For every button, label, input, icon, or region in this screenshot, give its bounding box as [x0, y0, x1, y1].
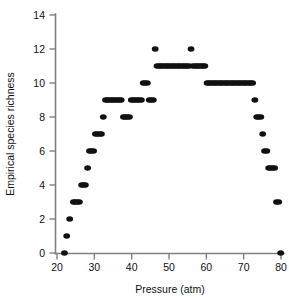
y-tick-label: 12 [33, 43, 45, 55]
data-point [277, 250, 284, 256]
x-tick-label: 70 [238, 261, 250, 273]
axes [55, 14, 284, 254]
data-points-layer [61, 46, 284, 256]
x-tick-label: 20 [51, 261, 63, 273]
y-axis-title: Empirical species richness [4, 72, 16, 196]
data-point [275, 199, 282, 205]
data-point [257, 114, 264, 120]
y-tick-label: 0 [39, 247, 45, 259]
data-point [249, 80, 256, 86]
data-point [259, 131, 266, 137]
y-tick-label: 2 [39, 213, 45, 225]
data-point [126, 114, 133, 120]
x-tick-label: 40 [126, 261, 138, 273]
data-point [90, 148, 97, 154]
data-point [271, 165, 278, 171]
data-point [100, 114, 107, 120]
data-point [201, 63, 208, 69]
data-point [61, 250, 68, 256]
y-tick-label: 8 [39, 111, 45, 123]
data-point [263, 148, 270, 154]
x-axis-ticks: 20304050607080 [51, 254, 287, 274]
x-axis-title: Pressure (atm) [135, 283, 204, 295]
chart-canvas: 20304050607080 02468101214 Pressure (atm… [0, 0, 289, 299]
data-point [251, 97, 258, 103]
scatter-plot-figure: 20304050607080 02468101214 Pressure (atm… [0, 0, 289, 299]
y-tick-label: 6 [39, 145, 45, 157]
data-point [144, 80, 151, 86]
x-tick-label: 50 [163, 261, 175, 273]
data-point [76, 199, 83, 205]
x-tick-label: 30 [88, 261, 100, 273]
data-point [82, 182, 89, 188]
data-point [63, 233, 70, 239]
data-point [138, 97, 145, 103]
x-tick-label: 60 [200, 261, 212, 273]
y-tick-label: 4 [39, 179, 45, 191]
data-point [66, 216, 73, 222]
data-point [118, 97, 125, 103]
x-tick-label: 80 [275, 261, 287, 273]
data-point [98, 131, 105, 137]
data-point [84, 165, 91, 171]
y-axis-ticks: 02468101214 [33, 9, 55, 259]
data-point [150, 97, 157, 103]
data-point [188, 46, 195, 52]
y-tick-label: 10 [33, 77, 45, 89]
y-tick-label: 14 [33, 9, 45, 21]
data-point [152, 46, 159, 52]
